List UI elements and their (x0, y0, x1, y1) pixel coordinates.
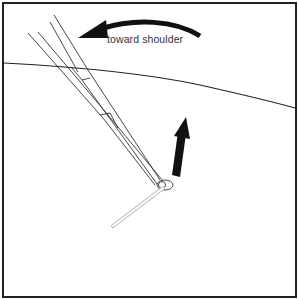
direction-label: toward shoulder (107, 33, 183, 45)
upward-arrow-icon (172, 117, 190, 177)
skin-surface-line (4, 63, 295, 108)
needle (113, 188, 163, 226)
